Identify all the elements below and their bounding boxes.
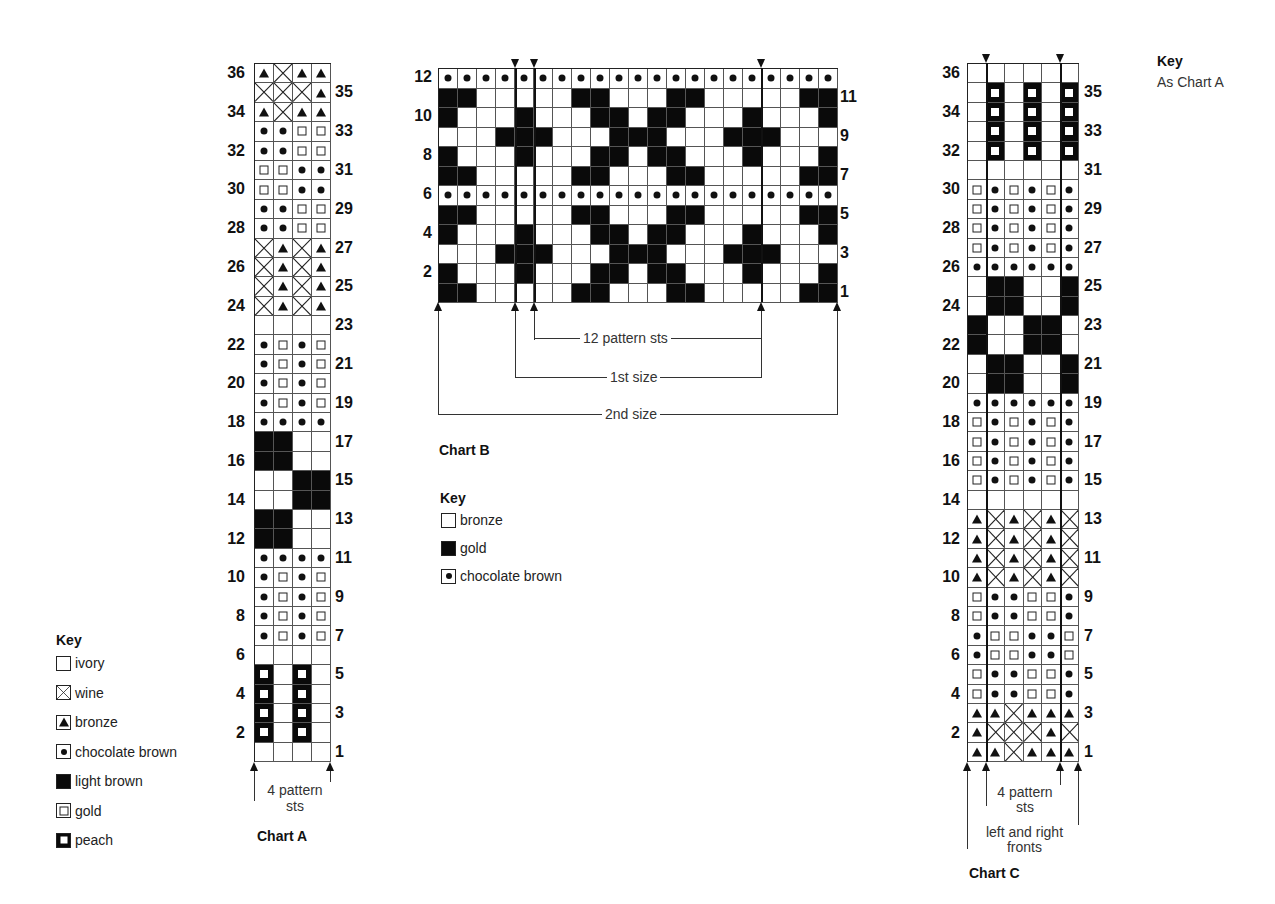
small-square-icon [1009,476,1018,485]
empty-cell [1042,277,1061,296]
triangle-cell [312,258,331,277]
dimension-line [438,311,439,415]
row-number: 27 [1084,239,1114,257]
empty-cell [553,108,572,128]
dot-icon [806,192,813,199]
dot-cell [255,122,274,141]
key-swatch-icon [441,541,456,556]
cross-cell [987,549,1006,568]
solid-cell [591,264,610,284]
triangle-icon [1046,553,1056,562]
empty-cell [968,64,987,83]
empty-cell [1042,161,1061,180]
dot-icon [299,593,306,600]
row-number: 1 [840,283,870,301]
row-number: 32 [930,142,960,160]
empty-cell [1005,491,1024,510]
row-number: 8 [215,607,245,625]
peach-square-icon [1028,108,1036,116]
key-item-label: bronze [75,714,118,730]
dot-cell [1024,394,1043,413]
triangle-icon [316,301,326,310]
solid-cell [667,206,686,226]
small-square-icon [1028,612,1037,621]
dot-cell [458,69,477,89]
solid-cell [819,89,838,109]
row-number: 4 [402,224,432,242]
dot-icon [635,75,642,82]
small-square-cell [274,161,293,180]
empty-cell [1024,161,1043,180]
key-swatch-icon [441,513,456,528]
arrow-down-icon [511,59,519,68]
dot-cell [987,200,1006,219]
row-number: 2 [215,724,245,742]
row-number: 8 [930,607,960,625]
cross-cell [255,83,274,102]
small-square-icon [1046,670,1055,679]
small-square-icon [317,592,326,601]
cross-icon [1061,529,1079,547]
small-square-cell [255,180,274,199]
empty-cell [496,225,515,245]
solid-cell [439,206,458,226]
solid-cell [515,147,534,167]
triangle-cell [274,258,293,277]
dot-icon [749,192,756,199]
dot-icon [673,192,680,199]
solid-cell [591,225,610,245]
dot-cell [705,69,724,89]
dot-cell [274,549,293,568]
dot-cell [1024,258,1043,277]
empty-cell [496,206,515,226]
dot-icon [280,554,287,561]
row-number: 3 [335,704,365,722]
empty-cell [781,108,800,128]
row-number: 1 [1084,743,1114,761]
cross-cell [1061,529,1080,548]
empty-cell [1024,374,1043,393]
peach-square-icon [1028,147,1036,155]
peach-cell [1061,142,1080,161]
empty-cell [312,665,331,684]
row-number: 36 [215,64,245,82]
empty-cell [762,284,781,304]
triangle-cell [1042,510,1061,529]
dot-icon [299,632,306,639]
empty-cell [293,646,312,665]
peach-square-icon [260,670,268,678]
dot-cell [1042,626,1061,645]
empty-cell [439,245,458,265]
repeat-line [986,63,988,762]
dot-cell [255,607,274,626]
dot-icon [1066,205,1073,212]
small-square-icon [991,650,1000,659]
arrow-up-icon [250,762,258,771]
row-number: 21 [1084,355,1114,373]
key-item-label: light brown [75,773,143,789]
dot-cell [648,69,667,89]
cross-cell [293,277,312,296]
solid-cell [274,432,293,451]
empty-cell [629,206,648,226]
row-number: 24 [930,297,960,315]
key-item: gold [56,803,101,819]
dot-cell [1061,471,1080,490]
solid-cell [1042,316,1061,335]
dot-icon [261,361,268,368]
key-item-label: gold [75,803,101,819]
dot-icon [730,75,737,82]
dot-cell [987,432,1006,451]
small-square-cell [1005,219,1024,238]
triangle-cell [1042,529,1061,548]
dot-cell [274,122,293,141]
row-number: 2 [402,263,432,281]
row-number: 34 [215,103,245,121]
triangle-cell [987,743,1006,762]
small-square-cell [968,607,987,626]
empty-cell [477,147,496,167]
row-number: 14 [930,491,960,509]
dot-cell [312,549,331,568]
empty-cell [312,646,331,665]
dimension-line [967,771,968,849]
